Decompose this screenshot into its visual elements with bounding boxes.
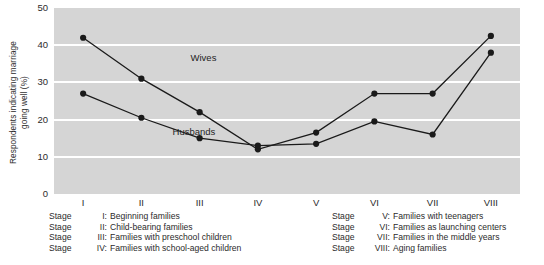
x-tick-II: II [121, 197, 161, 208]
series-label-wives: Wives [191, 52, 217, 63]
data-point-husbands-VII [430, 131, 436, 137]
x-tick-I: I [63, 197, 103, 208]
y-tick-40: 40 [24, 40, 48, 50]
legend-stage-numeral: II: [85, 222, 107, 233]
legend-stage-word: Stage [332, 211, 368, 222]
y-tick-20: 20 [24, 115, 48, 125]
legend-stage-description: Aging families [390, 243, 447, 254]
series-line-husbands [83, 53, 491, 146]
data-point-husbands-II [138, 115, 144, 121]
series-lines-and-markers [54, 8, 520, 194]
series-label-husbands: Husbands [173, 126, 216, 137]
x-tick-V: V [296, 197, 336, 208]
y-tick-10: 10 [24, 152, 48, 162]
legend-stage-description: Families with school-aged children [107, 243, 241, 254]
data-point-wives-III [197, 109, 203, 115]
y-axis-title-line-1: Respondents indicating marriage [9, 8, 20, 198]
legend-stage-numeral: VI: [368, 222, 390, 233]
data-point-wives-I [80, 35, 86, 41]
x-tick-VII: VII [413, 197, 453, 208]
stage-legend-left-row: StageII:Child-bearing families [49, 222, 241, 233]
legend-stage-description: Child-bearing families [107, 222, 193, 233]
legend-stage-numeral: V: [368, 211, 390, 222]
legend-stage-numeral: IV: [85, 243, 107, 254]
legend-stage-word: Stage [332, 232, 368, 243]
legend-stage-description: Families with teenagers [390, 211, 483, 222]
legend-stage-description: Families in the middle years [390, 232, 500, 243]
stage-legend-left-row: StageI:Beginning families [49, 211, 241, 222]
x-tick-VIII: VIII [471, 197, 511, 208]
legend-stage-word: Stage [49, 232, 85, 243]
stage-legend-right-row: StageVII:Families in the middle years [332, 232, 506, 243]
y-tick-50: 50 [24, 3, 48, 13]
y-tick-0: 0 [24, 189, 48, 199]
legend-stage-word: Stage [49, 211, 85, 222]
data-point-husbands-VIII [488, 50, 494, 56]
x-tick-VI: VI [354, 197, 394, 208]
stage-legend-right-row: StageVIII:Aging families [332, 243, 506, 254]
x-tick-III: III [180, 197, 220, 208]
y-axis-title-line-2: going well (%) [19, 8, 30, 198]
legend-stage-numeral: III: [85, 232, 107, 243]
data-point-wives-V [313, 130, 319, 136]
stage-legend-left-row: StageIII:Families with preschool childre… [49, 232, 241, 243]
y-tick-30: 30 [24, 77, 48, 87]
marriage-satisfaction-line-chart: Respondents indicating marriage going we… [0, 0, 544, 265]
plot-area: Wives Husbands [54, 8, 520, 194]
legend-stage-description: Families with preschool children [107, 232, 232, 243]
data-point-husbands-IV [255, 143, 261, 149]
stage-legend-right-row: StageVI:Families as launching centers [332, 222, 506, 233]
stage-legend-left: StageI:Beginning familiesStageII:Child-b… [49, 211, 241, 253]
data-point-wives-VI [371, 90, 377, 96]
data-point-wives-VIII [488, 33, 494, 39]
legend-stage-description: Families as launching centers [390, 222, 506, 233]
legend-stage-word: Stage [49, 243, 85, 254]
legend-stage-description: Beginning families [107, 211, 180, 222]
legend-stage-numeral: I: [85, 211, 107, 222]
legend-stage-numeral: VII: [368, 232, 390, 243]
stage-legend-right: StageV:Families with teenagersStageVI:Fa… [332, 211, 506, 253]
legend-stage-numeral: VIII: [368, 243, 390, 254]
data-point-wives-VII [430, 90, 436, 96]
y-axis-title: Respondents indicating marriage going we… [9, 8, 30, 198]
data-point-wives-II [138, 76, 144, 82]
stage-legend-right-row: StageV:Families with teenagers [332, 211, 506, 222]
legend-stage-word: Stage [49, 222, 85, 233]
data-point-husbands-V [313, 141, 319, 147]
data-point-husbands-VI [371, 118, 377, 124]
data-point-husbands-I [80, 90, 86, 96]
x-tick-IV: IV [238, 197, 278, 208]
stage-legend-left-row: StageIV:Families with school-aged childr… [49, 243, 241, 254]
legend-stage-word: Stage [332, 243, 368, 254]
legend-stage-word: Stage [332, 222, 368, 233]
